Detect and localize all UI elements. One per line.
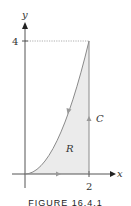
boundary-label-c: C (96, 113, 104, 124)
y-tick-label: 4 (12, 36, 18, 47)
region-r-fill (25, 41, 89, 174)
figure-diagram: y x 4 2 C R (0, 0, 131, 206)
y-axis-arrowhead-icon (22, 22, 28, 29)
x-axis-arrowhead-icon (110, 171, 116, 177)
y-axis-label: y (21, 9, 28, 20)
figure-caption: FIGURE 16.4.1 (0, 198, 131, 206)
region-label-r: R (65, 143, 74, 154)
x-tick-label: 2 (86, 181, 92, 192)
x-axis-label: x (117, 168, 123, 179)
